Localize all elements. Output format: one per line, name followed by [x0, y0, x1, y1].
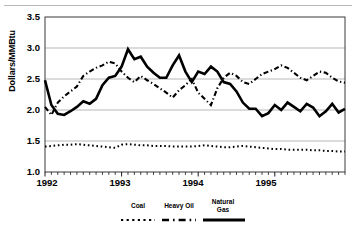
chart-legend: Coal Heavy Oil Natural Gas: [0, 193, 356, 226]
plot-frame: [45, 17, 345, 172]
x-tick-label-1993: 1993: [100, 177, 140, 188]
x-tick-label-1995: 1995: [246, 177, 286, 188]
legend-label-natural-gas: Natural Gas: [203, 198, 243, 213]
legend-swatches: [118, 215, 258, 225]
chart-container: Dollars/MMBtu 3.5 3.0 2.5 2.0 1.5 1.0 19…: [0, 0, 356, 226]
x-tick-label-1992: 1992: [27, 177, 67, 188]
x-tick-label-1994: 1994: [173, 177, 213, 188]
legend-label-coal: Coal: [121, 202, 155, 210]
series-line-natural-gas: [45, 49, 345, 116]
series-line-heavy-oil: [45, 62, 345, 115]
series-line-coal: [45, 144, 345, 151]
legend-label-heavy-oil: Heavy Oil: [158, 202, 200, 210]
